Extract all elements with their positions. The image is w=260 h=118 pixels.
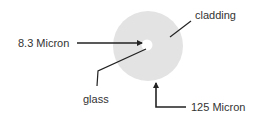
fiber-diagram: cladding 8.3 Micron glass 125 Micron (0, 0, 260, 118)
cladding-label: cladding (195, 9, 236, 21)
core-label: glass (83, 93, 109, 105)
cladding-size-arrow (156, 83, 186, 107)
core-hole (142, 40, 153, 51)
core-size-label: 8.3 Micron (18, 37, 69, 49)
cladding-size-label: 125 Micron (191, 101, 245, 113)
